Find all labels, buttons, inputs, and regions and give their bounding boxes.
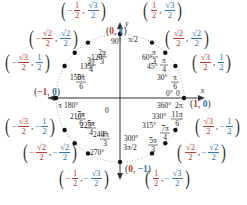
left-paren: ( (61, 0, 66, 21)
comma: , (213, 58, 215, 67)
x-sign: − (35, 34, 40, 43)
comma: , (55, 34, 57, 43)
right-paren: ) (50, 116, 55, 137)
comma: , (216, 122, 218, 131)
y-sign: − (34, 122, 39, 131)
rad-300-den: 3 (151, 145, 155, 154)
deg-30: 30° (157, 73, 168, 82)
left-paren: ( (143, 0, 148, 21)
x-fraction: √22 (36, 143, 47, 162)
comma: , (80, 174, 82, 183)
deg-90: 90° (111, 37, 122, 46)
y-sign: − (201, 148, 206, 157)
right-paren: ) (72, 142, 77, 163)
rad-pi: π (58, 101, 62, 110)
x-axis-label: x (200, 86, 205, 95)
point-60 (150, 40, 154, 44)
rad-150-den: 6 (79, 82, 83, 91)
right-paren: ) (177, 0, 182, 21)
x-fraction: 12 (153, 169, 159, 188)
rad-135-num: 3π (87, 56, 95, 65)
x-sign: − (11, 122, 16, 131)
rad-225-num: 5π (87, 119, 95, 128)
rad-30-num: π (173, 73, 177, 82)
x-fraction: √22 (42, 29, 53, 48)
rad-315-den: 4 (163, 133, 167, 142)
x-fraction: √22 (185, 143, 196, 162)
rad-150-num: 5π (77, 73, 85, 82)
y-fraction: √22 (191, 29, 202, 48)
left-paren: ( (177, 142, 182, 163)
coord-300: ( 12 , − √32 ) (144, 168, 191, 189)
deg-0: 0° (166, 89, 173, 98)
coord-210: ( − √32 , − 12 ) (4, 116, 56, 137)
x-fraction: √32 (18, 117, 29, 136)
coord-135: ( − √22 , √22 ) (28, 28, 79, 49)
x-sign: − (29, 148, 34, 157)
y-fraction: 12 (36, 53, 42, 72)
rad-210-num: 7π (77, 110, 85, 119)
y-axis-down-arrow-icon (117, 173, 123, 180)
rad-330-num: 11π (171, 110, 182, 119)
rad-240-num: 4π (101, 130, 109, 139)
x-fraction: 12 (74, 1, 80, 20)
left-paren: ( (192, 52, 197, 73)
coord-330: ( √32 , − 12 ) (194, 116, 241, 137)
point-45 (163, 51, 167, 55)
rad-120-den: 3 (100, 57, 104, 66)
coord-150: ( − √32 , 12 ) (4, 52, 51, 73)
x-sign: − (67, 6, 72, 15)
rad-225-den: 4 (89, 128, 93, 137)
x-fraction: √32 (200, 53, 211, 72)
y-fraction: √32 (91, 169, 102, 188)
coord-30: ( √32 , 12 ) (191, 52, 232, 73)
rad-240-den: 3 (103, 139, 107, 148)
deg-360: 360° (157, 101, 171, 110)
rad-60-num: π (152, 48, 156, 57)
y-sign: − (84, 174, 89, 183)
comma: , (159, 6, 161, 15)
y-sign: − (165, 174, 170, 183)
left-paren: ( (59, 168, 64, 189)
point-150 (62, 64, 66, 68)
rad-270: 3π/2 (123, 143, 137, 152)
y-fraction: √32 (88, 1, 99, 20)
rad-60-den: 3 (152, 57, 156, 66)
y-fraction: 12 (41, 117, 47, 136)
right-paren: ) (104, 168, 109, 189)
coord-45: ( √22 , √22 ) (164, 28, 210, 49)
point-120 (86, 40, 90, 44)
x-fraction: 12 (151, 1, 157, 20)
coord-180: (−1, 0) (34, 87, 60, 97)
x-sign: − (65, 174, 70, 183)
point-0 (182, 96, 186, 100)
y-fraction: √22 (208, 143, 219, 162)
coord-90: (0, 1) (106, 26, 127, 36)
point-135 (73, 51, 77, 55)
comma: , (186, 34, 188, 43)
deg-60: 60° (142, 53, 153, 62)
rad-210-den: 6 (79, 119, 83, 128)
right-paren: ) (221, 142, 226, 163)
comma: , (31, 58, 33, 67)
y-fraction: 12 (218, 53, 224, 72)
comma: , (161, 174, 163, 183)
right-paren: ) (235, 116, 240, 137)
deg-330: 330° (152, 112, 166, 121)
coord-240: ( − 12 , − √32 ) (58, 168, 110, 189)
point-210 (62, 128, 66, 132)
deg-180: 180° (64, 101, 78, 110)
coord-225: ( − √22 , − √22 ) (22, 142, 78, 163)
y-fraction: 12 (226, 117, 232, 136)
rad-120-num: 2π (98, 48, 106, 57)
x-fraction: √32 (18, 53, 29, 72)
point-30 (173, 64, 177, 68)
coord-120: ( − 12 , √32 ) (60, 0, 107, 21)
rad-330-den: 6 (175, 119, 179, 128)
point-270 (118, 160, 122, 164)
left-paren: ( (195, 116, 200, 137)
x-fraction: 12 (72, 169, 78, 188)
y-fraction: √32 (172, 169, 183, 188)
x-fraction: √32 (203, 117, 214, 136)
right-paren: ) (73, 28, 78, 49)
